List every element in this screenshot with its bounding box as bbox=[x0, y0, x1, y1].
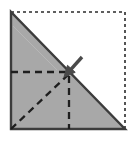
fold-diagram-figure bbox=[0, 0, 135, 142]
fold-diagram-canvas bbox=[0, 0, 135, 142]
